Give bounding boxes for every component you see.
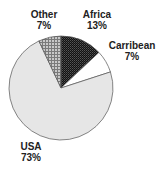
label-usa-name: USA [18, 141, 44, 152]
label-africa-pct: 13% [78, 20, 116, 31]
label-other: Other 7% [27, 9, 61, 31]
label-other-name: Other [27, 9, 61, 20]
label-carribean-pct: 7% [106, 51, 158, 62]
label-africa-name: Africa [78, 9, 116, 20]
label-africa: Africa 13% [78, 9, 116, 31]
label-carribean-name: Carribean [106, 40, 158, 51]
pie-slices [9, 36, 113, 140]
label-carribean: Carribean 7% [106, 40, 158, 62]
label-other-pct: 7% [27, 20, 61, 31]
label-usa-pct: 73% [18, 152, 44, 163]
label-usa: USA 73% [18, 141, 44, 163]
